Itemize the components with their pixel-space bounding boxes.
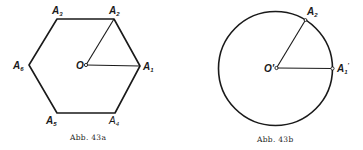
label-a1-prime: A1' [336,62,350,75]
label-a6: A6 [12,60,24,72]
point-a1-prime [331,67,334,70]
label-o-prime: O' [264,63,275,74]
segment-o-a1-prime [277,68,333,69]
diagram-canvas: A3 A2 A6 O A1 A5 A4 Abb. 43a A2 O' A1' A… [0,0,363,150]
label-a2-circle: A2 [306,6,318,18]
figure-43a: A3 A2 A6 O A1 A5 A4 Abb. 43a [12,5,154,142]
label-o: O [76,60,84,71]
figure-43b: A2 O' A1' Abb. 43b [219,6,350,144]
segment-o-a1 [86,65,140,66]
label-a1: A1 [142,61,154,73]
point-a2 [304,19,307,22]
segment-o-a2 [277,20,306,68]
center-point-o [84,63,87,66]
center-point-o-prime [275,66,278,69]
label-a5: A5 [45,115,57,127]
label-a2: A2 [108,5,120,17]
segment-o-a2 [86,19,114,65]
label-a3: A3 [51,5,63,17]
caption-43a: Abb. 43a [69,133,106,142]
caption-43b: Abb. 43b [256,135,294,144]
label-a4: A4 [108,115,120,127]
